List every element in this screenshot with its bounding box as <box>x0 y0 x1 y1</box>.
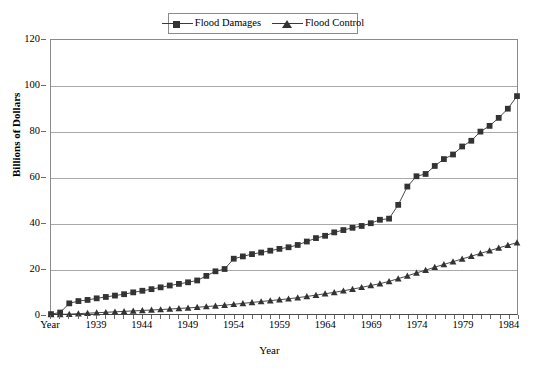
legend-label-flood-control: Flood Control <box>305 18 364 29</box>
x-axis-tickmark <box>399 315 400 319</box>
y-axis-tick-label: 40 <box>30 218 41 229</box>
data-point-square <box>414 173 420 179</box>
data-point-square <box>432 163 438 169</box>
legend-label-flood-damages: Flood Damages <box>195 18 261 29</box>
data-point-square <box>368 220 374 226</box>
data-point-square <box>487 123 493 129</box>
y-axis-tickmark <box>41 177 46 178</box>
x-axis-tickmark <box>490 315 491 319</box>
x-axis-tickmark <box>68 315 69 319</box>
data-point-square <box>322 233 328 239</box>
x-axis-tickmark <box>307 315 308 319</box>
data-point-square <box>167 283 173 289</box>
data-point-square <box>459 144 465 150</box>
y-axis-labels: 020406080100120 <box>0 33 46 321</box>
x-axis-tickmark <box>435 315 436 319</box>
legend-entry-flood-damages: Flood Damages <box>162 18 261 29</box>
x-axis-tick-label: 1969 <box>361 320 382 331</box>
x-axis-tickmark <box>123 315 124 319</box>
data-point-square <box>176 281 182 287</box>
y-axis-tick-label: 0 <box>35 310 40 321</box>
y-axis-tickmark <box>41 315 46 316</box>
y-axis-tickmark <box>41 85 46 86</box>
series-line-flood-damages <box>51 96 517 314</box>
y-axis-tick-label: 60 <box>30 172 41 183</box>
data-point-square <box>66 300 72 306</box>
data-point-square <box>94 295 100 301</box>
x-axis-tickmark <box>114 315 115 319</box>
data-point-square <box>340 227 346 233</box>
x-axis-tick-label: 1964 <box>315 320 336 331</box>
x-axis-tick-label: 1984 <box>498 320 519 331</box>
data-point-square <box>377 217 383 223</box>
x-axis-tickmark <box>78 315 79 319</box>
data-point-square <box>130 289 136 295</box>
triangle-marker-icon <box>272 19 303 28</box>
data-point-square <box>496 115 502 121</box>
data-point-square <box>441 156 447 162</box>
x-axis-tick-label: Year <box>40 320 59 331</box>
x-axis-tickmark <box>445 315 446 319</box>
data-point-square <box>103 294 109 300</box>
data-point-square <box>468 138 474 144</box>
y-axis-tickmark <box>41 131 46 132</box>
data-point-square <box>395 202 401 208</box>
x-axis-tickmark <box>344 315 345 319</box>
series-line-flood-control <box>51 243 517 315</box>
x-axis-tickmark <box>160 315 161 319</box>
square-marker-icon <box>162 19 193 28</box>
data-point-square <box>149 286 155 292</box>
x-axis-labels: Year193919441949195419591964196919741979… <box>0 320 539 336</box>
data-point-square <box>295 242 301 248</box>
x-axis-tickmark <box>252 315 253 319</box>
x-axis-tick-label: 1944 <box>131 320 152 331</box>
y-axis-tickmark <box>41 39 46 40</box>
data-point-square <box>423 171 429 177</box>
data-point-square <box>231 256 237 262</box>
data-point-square <box>213 268 219 274</box>
x-axis-tickmark <box>206 315 207 319</box>
data-point-square <box>258 250 264 256</box>
data-point-square <box>359 223 365 229</box>
y-axis-tick-label: 20 <box>30 264 41 275</box>
data-point-square <box>85 297 91 303</box>
data-point-square <box>304 239 310 245</box>
data-point-square <box>514 93 520 99</box>
data-point-square <box>240 254 246 260</box>
data-point-square <box>350 225 356 231</box>
data-point-square <box>222 266 228 272</box>
x-axis-tickmark <box>261 315 262 319</box>
y-axis-tickmark <box>41 223 46 224</box>
data-point-square <box>185 279 191 285</box>
y-axis-tick-label: 100 <box>24 80 40 91</box>
chart-legend: Flood Damages Flood Control <box>168 13 358 34</box>
x-axis-tickmark <box>169 315 170 319</box>
data-point-square <box>286 244 292 250</box>
data-point-triangle <box>514 239 521 245</box>
y-axis-tick-label: 120 <box>24 34 40 45</box>
x-axis-tick-label: 1949 <box>177 320 198 331</box>
plot-area <box>50 39 518 315</box>
y-axis-tickmark <box>41 269 46 270</box>
data-point-square <box>121 291 127 297</box>
chart-page: Flood Damages Flood Control Billions of … <box>0 0 539 373</box>
x-axis-tick-label: 1959 <box>269 320 290 331</box>
data-point-square <box>404 184 410 190</box>
legend-entry-flood-control: Flood Control <box>272 18 364 29</box>
data-point-square <box>267 248 273 254</box>
data-series-layer <box>51 40 517 315</box>
data-point-square <box>450 152 456 158</box>
x-axis-tickmark <box>481 315 482 319</box>
data-point-square <box>277 246 283 252</box>
data-point-square <box>249 251 255 257</box>
data-point-square <box>313 235 319 241</box>
data-point-square <box>112 293 118 299</box>
data-point-square <box>331 229 337 235</box>
data-point-square <box>505 106 511 112</box>
x-axis-title: Year <box>0 344 539 356</box>
y-axis-tick-label: 80 <box>30 126 41 137</box>
data-point-square <box>203 273 209 279</box>
data-point-square <box>139 288 145 294</box>
x-axis-tick-label: 1939 <box>85 320 106 331</box>
x-axis-tickmark <box>390 315 391 319</box>
